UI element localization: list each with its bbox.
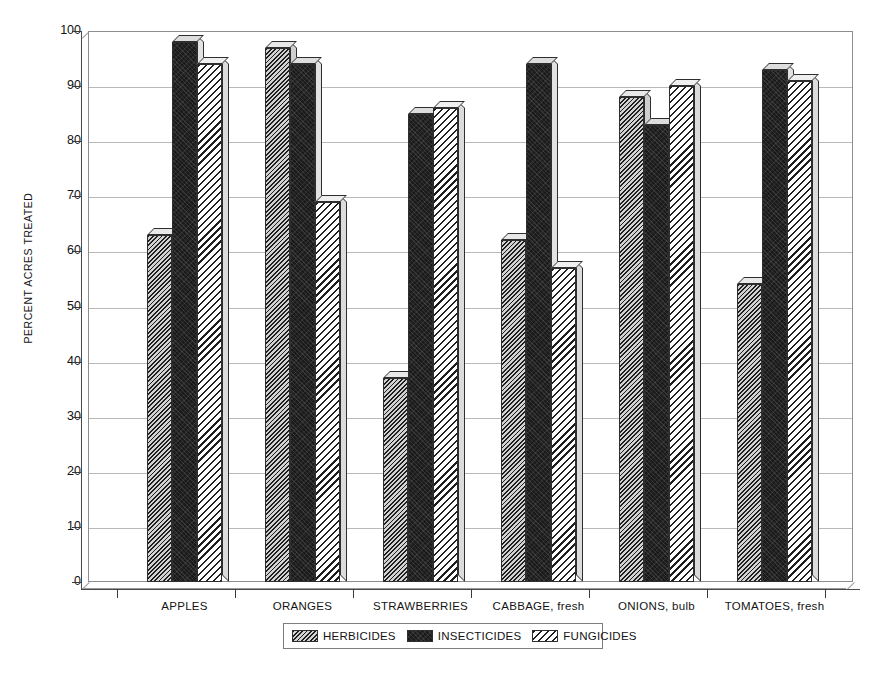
gridline	[89, 142, 852, 143]
y-tick-label: 70	[47, 188, 81, 202]
x-tick-mark	[707, 589, 708, 598]
y-tick-mark	[72, 196, 81, 197]
y-tick-label: 100	[47, 23, 81, 37]
gridline	[89, 473, 852, 474]
legend-entry-insecticides[interactable]: INSECTICIDES	[407, 630, 522, 642]
gridline	[89, 197, 852, 198]
legend-swatch-icon	[407, 630, 433, 642]
legend-entry-fungicides[interactable]: FUNGICIDES	[532, 630, 636, 642]
gridline	[89, 87, 852, 88]
legend-label: INSECTICIDES	[438, 630, 522, 642]
gridline	[89, 308, 852, 309]
y-tick-label: 40	[47, 354, 81, 368]
y-tick-mark	[72, 141, 81, 142]
x-tick-label: CABBAGE, fresh	[493, 600, 585, 612]
y-tick-label: 60	[47, 243, 81, 257]
gridline	[89, 528, 852, 529]
y-tick-mark	[72, 251, 81, 252]
x-tick-label: TOMATOES, fresh	[725, 600, 825, 612]
x-tick-mark	[589, 589, 590, 598]
legend-label: HERBICIDES	[323, 630, 396, 642]
y-axis-ticks: 0102030405060708090100	[38, 0, 81, 675]
bar-chart: PERCENT ACRES TREATED 010203040506070809…	[0, 0, 881, 675]
y-axis-line	[81, 31, 82, 589]
y-tick-label: 0	[47, 574, 81, 588]
y-tick-label: 20	[47, 464, 81, 478]
x-tick-label: STRAWBERRIES	[373, 600, 468, 612]
y-tick-mark	[72, 307, 81, 308]
y-tick-mark	[72, 362, 81, 363]
y-tick-label: 90	[47, 78, 81, 92]
x-tick-mark	[235, 589, 236, 598]
legend-swatch-icon	[532, 630, 558, 642]
legend-swatch-icon	[292, 630, 318, 642]
y-tick-mark	[72, 86, 81, 87]
y-tick-mark	[72, 582, 81, 583]
y-tick-label: 50	[47, 299, 81, 313]
y-tick-mark	[72, 31, 81, 32]
y-tick-label: 30	[47, 409, 81, 423]
x-tick-label: ONIONS, bulb	[618, 600, 695, 612]
plot-area-frame	[88, 31, 853, 582]
gridline	[89, 363, 852, 364]
y-tick-mark	[72, 527, 81, 528]
x-tick-mark	[353, 589, 354, 598]
y-tick-mark	[72, 417, 81, 418]
gridline	[89, 252, 852, 253]
x-tick-mark	[825, 589, 826, 598]
x-tick-label: ORANGES	[273, 600, 333, 612]
chart-legend: HERBICIDESINSECTICIDESFUNGICIDES	[283, 623, 603, 649]
y-axis-title: PERCENT ACRES TREATED	[22, 168, 34, 368]
x-tick-mark	[117, 589, 118, 598]
y-tick-mark	[72, 472, 81, 473]
legend-entry-herbicides[interactable]: HERBICIDES	[292, 630, 396, 642]
legend-label: FUNGICIDES	[563, 630, 636, 642]
x-tick-mark	[471, 589, 472, 598]
y-tick-label: 80	[47, 133, 81, 147]
y-tick-label: 10	[47, 519, 81, 533]
x-tick-label: APPLES	[161, 600, 208, 612]
gridline	[89, 418, 852, 419]
